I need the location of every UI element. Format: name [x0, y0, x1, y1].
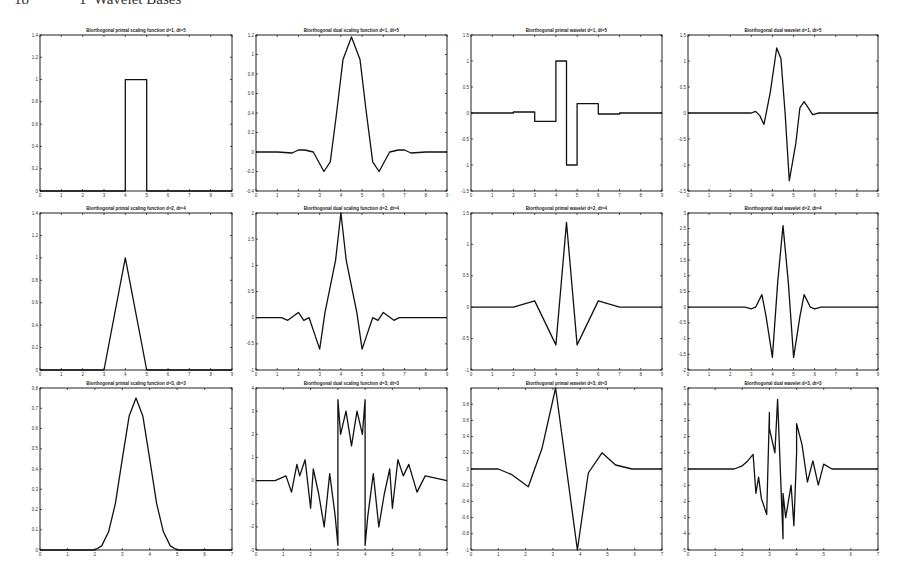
data-line — [40, 398, 232, 550]
x-tick-label: 1 — [708, 372, 711, 377]
x-tick-label: 2 — [729, 372, 732, 377]
x-tick-label: 5 — [576, 193, 579, 198]
y-tick-label: -1 — [465, 368, 469, 373]
x-tick-label: 5 — [391, 552, 394, 557]
plot-area: 0123456789-1-0.500.511.52 — [256, 213, 447, 370]
plot-frame — [688, 213, 878, 370]
x-tick-label: 1 — [708, 193, 711, 198]
y-tick-label: -0.2 — [246, 169, 254, 174]
x-tick-label: 8 — [640, 372, 643, 377]
x-tick-label: 8 — [209, 193, 212, 198]
y-tick-label: 0.2 — [32, 166, 39, 171]
y-tick-label: 3 — [683, 418, 686, 423]
x-tick-label: 0 — [255, 552, 258, 557]
data-line — [256, 400, 447, 546]
plot-area: 01234567-5-4-3-2-1012345 — [688, 388, 878, 550]
y-tick-label: -0.4 — [246, 189, 254, 194]
y-tick-label: -0.5 — [678, 320, 686, 325]
x-tick-label: 2 — [297, 193, 300, 198]
x-tick-label: 0 — [255, 372, 258, 377]
y-tick-label: 0 — [683, 467, 686, 472]
x-tick-label: 3 — [750, 193, 753, 198]
y-tick-label: 1.5 — [463, 33, 470, 38]
x-tick-label: 1 — [497, 552, 500, 557]
y-tick-label: 0.8 — [32, 386, 39, 391]
y-tick-label: 1 — [683, 273, 686, 278]
plot-area: 0123456789-1.5-1-0.500.511.5 — [471, 35, 662, 191]
y-tick-label: 0.5 — [680, 85, 687, 90]
plot-title: Biorthogonal primal wavelet d=3, dt=3 — [526, 381, 607, 386]
y-tick-label: -0.5 — [461, 137, 469, 142]
x-tick-label: 8 — [425, 193, 428, 198]
plot-panel: Biorthogonal primal scaling function d=3… — [40, 388, 232, 550]
x-tick-label: 8 — [209, 372, 212, 377]
plot-frame — [256, 388, 447, 550]
y-tick-label: 0.8 — [32, 278, 39, 283]
x-tick-label: 9 — [877, 372, 880, 377]
x-tick-label: 6 — [597, 372, 600, 377]
plot-title: Biorthogonal primal wavelet d=2, dt=4 — [526, 206, 607, 211]
y-tick-label: 0.6 — [32, 122, 39, 127]
x-tick-label: 1 — [66, 552, 69, 557]
y-tick-label: 0.2 — [248, 130, 255, 135]
x-tick-label: 2 — [512, 372, 515, 377]
y-tick-label: 2 — [251, 432, 254, 437]
x-tick-label: 5 — [145, 193, 148, 198]
y-tick-label: 0.5 — [32, 446, 39, 451]
x-tick-label: 7 — [403, 372, 406, 377]
y-tick-label: 1.5 — [680, 33, 687, 38]
x-tick-label: 1 — [60, 372, 63, 377]
y-tick-label: 2 — [251, 211, 254, 216]
y-tick-label: 4 — [251, 386, 254, 391]
x-tick-label: 0 — [470, 372, 473, 377]
y-tick-label: -1 — [250, 501, 254, 506]
x-tick-label: 6 — [633, 552, 636, 557]
y-tick-label: 0.5 — [680, 289, 687, 294]
y-tick-label: 0.5 — [248, 289, 255, 294]
x-tick-label: 4 — [555, 372, 558, 377]
y-tick-label: -0.5 — [246, 341, 254, 346]
y-tick-label: -5 — [682, 548, 686, 553]
x-tick-label: 1 — [276, 372, 279, 377]
x-tick-label: 7 — [188, 372, 191, 377]
y-tick-label: 0.6 — [32, 300, 39, 305]
y-tick-label: 1.2 — [32, 55, 39, 60]
x-tick-label: 7 — [403, 193, 406, 198]
data-line — [471, 222, 662, 345]
y-tick-label: 0.4 — [32, 323, 39, 328]
y-tick-label: 1 — [35, 77, 38, 82]
data-line — [688, 226, 878, 358]
x-tick-label: 7 — [231, 552, 234, 557]
x-tick-label: 3 — [533, 193, 536, 198]
x-tick-label: 0 — [687, 552, 690, 557]
x-tick-label: 9 — [446, 193, 449, 198]
y-tick-label: 3 — [251, 409, 254, 414]
data-line — [471, 388, 662, 550]
x-tick-label: 4 — [795, 552, 798, 557]
x-tick-label: 5 — [176, 552, 179, 557]
y-tick-label: 0.4 — [248, 111, 255, 116]
x-tick-label: 0 — [687, 193, 690, 198]
y-tick-label: -2 — [250, 524, 254, 529]
y-tick-label: 0 — [251, 315, 254, 320]
y-tick-label: 0.5 — [463, 85, 470, 90]
x-tick-label: 7 — [835, 372, 838, 377]
data-line — [40, 258, 232, 370]
x-tick-label: 2 — [81, 372, 84, 377]
y-tick-label: 2 — [683, 434, 686, 439]
plot-panel: Biorthogonal dual wavelet d=3, dt=301234… — [688, 388, 878, 550]
plot-panel: Biorthogonal dual scaling function d=3, … — [256, 388, 447, 550]
x-tick-label: 3 — [121, 552, 124, 557]
plot-area: 0123456789-0.4-0.200.20.40.60.811.2 — [256, 35, 447, 191]
x-tick-label: 0 — [39, 372, 42, 377]
plot-title: Biorthogonal dual wavelet d=3, dt=3 — [744, 381, 821, 386]
x-tick-label: 4 — [340, 372, 343, 377]
x-tick-label: 0 — [687, 372, 690, 377]
x-tick-label: 2 — [512, 193, 515, 198]
plot-frame — [40, 35, 232, 191]
plot-area: 0123456789-1.5-1-0.500.511.5 — [688, 35, 878, 191]
x-tick-label: 6 — [167, 372, 170, 377]
y-tick-label: 0.1 — [32, 527, 39, 532]
y-tick-label: 0 — [251, 150, 254, 155]
x-tick-label: 6 — [597, 193, 600, 198]
